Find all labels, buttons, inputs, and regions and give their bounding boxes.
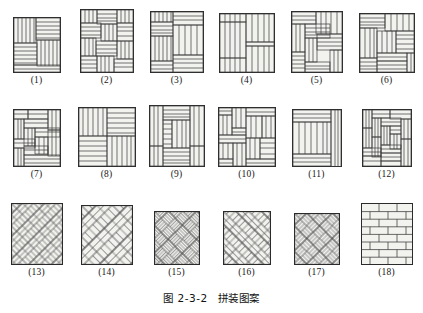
pattern-row-3: (13) (0, 200, 423, 278)
pattern-tile-7 (13, 109, 61, 167)
caption-title: 拼装图案 (218, 292, 260, 304)
pattern-cell-6: (6) (352, 13, 422, 86)
figure-container: (1) (0, 0, 423, 313)
pattern-tile-6 (359, 13, 415, 73)
pattern-cell-1: (1) (2, 17, 72, 86)
pattern-tile-17 (294, 213, 340, 265)
pattern-label-16: (16) (238, 267, 255, 278)
pattern-tile-1 (13, 17, 61, 73)
pattern-tile-16 (223, 211, 271, 265)
pattern-tile-18 (361, 203, 413, 265)
pattern-label-10: (10) (238, 169, 255, 180)
pattern-tile-12 (362, 109, 412, 167)
pattern-cell-16: (16) (212, 211, 282, 278)
pattern-tile-2 (80, 9, 134, 73)
pattern-label-14: (14) (98, 267, 115, 278)
pattern-tile-8 (78, 107, 136, 167)
pattern-cell-7: (7) (2, 109, 72, 180)
pattern-row-1: (1) (0, 14, 423, 86)
pattern-label-7: (7) (31, 169, 43, 180)
pattern-label-9: (9) (171, 169, 183, 180)
pattern-row-2: (7) (0, 106, 423, 180)
pattern-cell-12: (12) (352, 109, 422, 180)
pattern-tile-10 (218, 107, 276, 167)
pattern-tile-5 (291, 11, 343, 73)
pattern-tile-13 (11, 203, 63, 265)
pattern-cell-2: (2) (72, 9, 142, 86)
caption-number: 图 2-3-2 (163, 292, 207, 304)
pattern-label-1: (1) (31, 75, 43, 86)
pattern-cell-9: (9) (142, 105, 212, 180)
pattern-cell-3: (3) (142, 11, 212, 86)
pattern-cell-18: (18) (352, 203, 422, 278)
pattern-label-11: (11) (308, 169, 324, 180)
pattern-cell-17: (17) (282, 213, 352, 278)
pattern-label-13: (13) (28, 267, 45, 278)
pattern-cell-10: (10) (212, 107, 282, 180)
pattern-cell-4: (4) (212, 13, 282, 86)
pattern-tile-4 (219, 13, 275, 73)
pattern-label-2: (2) (101, 75, 113, 86)
pattern-tile-11 (292, 109, 342, 167)
pattern-tile-3 (150, 11, 204, 73)
pattern-tile-9 (149, 105, 205, 167)
pattern-cell-13: (13) (2, 203, 72, 278)
pattern-cell-8: (8) (72, 107, 142, 180)
pattern-cell-15: (15) (142, 211, 212, 278)
pattern-label-12: (12) (378, 169, 395, 180)
pattern-label-6: (6) (381, 75, 393, 86)
pattern-label-3: (3) (171, 75, 183, 86)
pattern-cell-5: (5) (282, 11, 352, 86)
pattern-label-5: (5) (311, 75, 323, 86)
pattern-label-15: (15) (168, 267, 185, 278)
pattern-label-4: (4) (241, 75, 253, 86)
pattern-label-18: (18) (378, 267, 395, 278)
pattern-cell-14: (14) (72, 205, 142, 278)
pattern-tile-15 (154, 211, 200, 265)
pattern-cell-11: (11) (282, 109, 352, 180)
pattern-label-17: (17) (308, 267, 325, 278)
figure-caption: 图 2-3-2拼装图案 (0, 290, 423, 305)
pattern-label-8: (8) (101, 169, 113, 180)
pattern-tile-14 (81, 205, 133, 265)
